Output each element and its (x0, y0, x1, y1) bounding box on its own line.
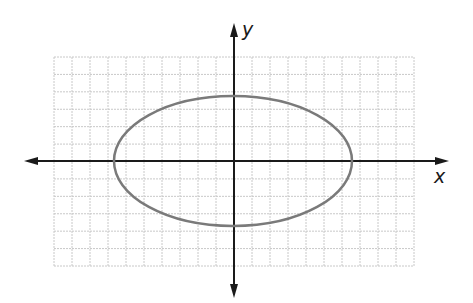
y-axis-down-arrow-icon (230, 284, 238, 298)
y-axis-up-arrow-icon (230, 23, 238, 37)
x-axis (24, 157, 449, 165)
x-axis-left-arrow-icon (24, 157, 38, 165)
ellipse-diagram (0, 0, 473, 303)
x-axis-label: x (434, 167, 445, 186)
y-axis-label: y (242, 20, 253, 39)
x-axis-right-arrow-icon (435, 157, 449, 165)
